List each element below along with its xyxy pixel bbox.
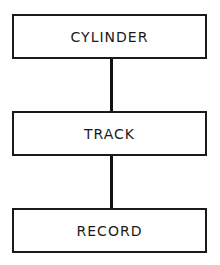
node-record: RECORD [12, 208, 207, 253]
node-label: RECORD [77, 223, 143, 239]
connector-track-record [110, 155, 113, 208]
node-track: TRACK [12, 111, 207, 156]
node-label: CYLINDER [71, 29, 149, 45]
node-cylinder: CYLINDER [12, 14, 207, 59]
connector-cylinder-track [110, 57, 113, 111]
node-label: TRACK [84, 126, 135, 142]
